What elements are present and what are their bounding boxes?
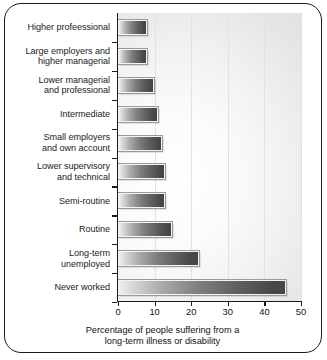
- category-label: Lower managerialand professional: [6, 75, 110, 96]
- category-label: Large employers andhigher managerial: [6, 46, 110, 67]
- x-tick-label-10: 10: [142, 306, 168, 317]
- bar: [118, 280, 286, 295]
- bar: [118, 222, 172, 237]
- category-label-line: Intermediate: [6, 109, 110, 120]
- category-label-line: unemployed: [6, 259, 110, 270]
- bar-row: [118, 107, 301, 122]
- bar: [118, 107, 158, 122]
- x-tick-label-0: 0: [105, 306, 131, 317]
- bar-row: [118, 280, 301, 295]
- bar-row: [118, 20, 301, 35]
- y-tick: [112, 100, 117, 101]
- x-tick-label-20: 20: [178, 306, 204, 317]
- x-tick-label-40: 40: [251, 306, 277, 317]
- bar-row: [118, 193, 301, 208]
- category-label-line: Large employers and: [6, 46, 110, 57]
- category-label: Lower supervisoryand technical: [6, 161, 110, 182]
- y-tick: [112, 71, 117, 72]
- category-label: Small employersand own account: [6, 132, 110, 153]
- category-label-line: Never worked: [6, 282, 110, 293]
- category-label: Intermediate: [6, 109, 110, 120]
- y-tick: [112, 302, 117, 303]
- x-axis-title: Percentage of people suffering from alon…: [40, 325, 285, 347]
- category-label: Routine: [6, 224, 110, 235]
- category-axis-labels: Higher profeessionalLarge employers andh…: [6, 13, 114, 302]
- y-tick: [112, 42, 117, 43]
- gridline-50: [301, 13, 302, 302]
- bar-row: [118, 49, 301, 64]
- bar-row: [118, 251, 301, 266]
- category-label-line: Lower managerial: [6, 75, 110, 86]
- bar-row: [118, 78, 301, 93]
- y-tick: [112, 158, 117, 159]
- bar: [118, 251, 199, 266]
- bar-row: [118, 222, 301, 237]
- category-label-line: Lower supervisory: [6, 161, 110, 172]
- x-axis-title-line: Percentage of people suffering from a: [40, 325, 285, 336]
- category-label: Semi-routine: [6, 196, 110, 207]
- category-label-line: and own account: [6, 143, 110, 154]
- x-axis-line: [117, 301, 302, 302]
- bar: [118, 164, 165, 179]
- bar: [118, 78, 154, 93]
- category-label: Never worked: [6, 282, 110, 293]
- y-axis-line: [117, 13, 118, 302]
- y-tick: [112, 186, 117, 187]
- category-label: Higher profeessional: [6, 22, 110, 33]
- bar-chart-figure: Higher profeessionalLarge employers andh…: [0, 0, 327, 360]
- category-label-line: and technical: [6, 172, 110, 183]
- bar: [118, 49, 147, 64]
- category-label-line: Routine: [6, 224, 110, 235]
- bar-row: [118, 136, 301, 151]
- category-label-line: higher managerial: [6, 56, 110, 67]
- category-label-line: Long-term: [6, 248, 110, 259]
- category-label-line: Higher profeessional: [6, 22, 110, 33]
- y-tick: [112, 215, 117, 216]
- bar: [118, 136, 162, 151]
- y-tick: [112, 273, 117, 274]
- y-tick: [112, 129, 117, 130]
- category-label-line: Semi-routine: [6, 196, 110, 207]
- category-label: Long-termunemployed: [6, 248, 110, 269]
- category-label-line: Small employers: [6, 132, 110, 143]
- category-label-line: and professional: [6, 85, 110, 96]
- bar: [118, 20, 147, 35]
- y-tick: [112, 244, 117, 245]
- x-axis-title-line: long-term illness or disability: [40, 336, 285, 347]
- bar-row: [118, 164, 301, 179]
- x-tick-label-30: 30: [215, 306, 241, 317]
- bar: [118, 193, 165, 208]
- x-tick-label-50: 50: [288, 306, 314, 317]
